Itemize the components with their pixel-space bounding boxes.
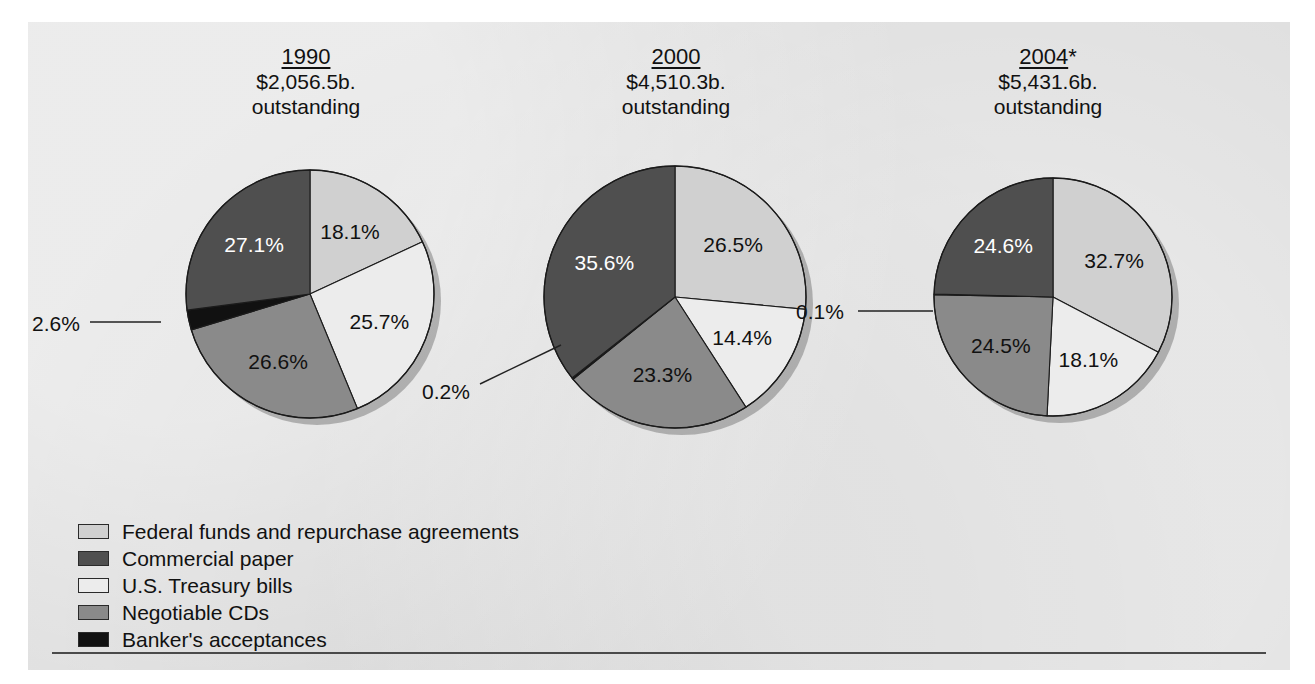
pie-slice-label-federal-funds: 18.1% — [320, 220, 380, 243]
legend-item-federal-funds[interactable]: Federal funds and repurchase agreements — [78, 518, 519, 545]
legend: Federal funds and repurchase agreements … — [78, 518, 519, 653]
pie-slice-label-negotiable-cds: 26.6% — [248, 350, 308, 373]
pie-header-2000: 2000 $4,510.3b. outstanding — [506, 44, 846, 119]
pie-chart-2000: 26.5%14.4%23.3%35.6% — [538, 160, 812, 434]
pie-amount-2004: $5,431.6b. — [878, 69, 1218, 94]
pie-slice-label-treasury-bills: 25.7% — [350, 310, 410, 333]
pie-callout-2000-bankers: 0.2% — [422, 380, 470, 404]
pie-year-1990-text: 1990 — [282, 44, 331, 69]
bottom-divider — [52, 652, 1266, 654]
legend-label-federal-funds: Federal funds and repurchase agreements — [122, 520, 519, 544]
legend-item-negotiable-cds[interactable]: Negotiable CDs — [78, 599, 519, 626]
legend-swatch-bankers-acceptances — [78, 632, 109, 647]
pie-amount-1990: $2,056.5b. — [136, 69, 476, 94]
pie-slice-label-commercial-paper: 24.6% — [973, 234, 1033, 257]
legend-label-negotiable-cds: Negotiable CDs — [122, 601, 269, 625]
pie-header-1990: 1990 $2,056.5b. outstanding — [136, 44, 476, 119]
pie-callout-2004-bankers: 0.1% — [796, 300, 844, 324]
pie-chart-1990-svg: 18.1%25.7%26.6%27.1% — [180, 164, 440, 424]
pie-slice-label-negotiable-cds: 24.5% — [971, 334, 1031, 357]
pie-year-2000: 2000 — [652, 44, 701, 69]
pie-header-2004: 2004* $5,431.6b. outstanding — [878, 44, 1218, 119]
legend-swatch-federal-funds — [78, 524, 109, 539]
pie-chart-2000-svg: 26.5%14.4%23.3%35.6% — [538, 160, 812, 434]
pie-amount-note-1990: outstanding — [136, 94, 476, 119]
pie-chart-2004: 32.7%18.1%24.5%24.6% — [928, 172, 1178, 422]
pie-amount-2000: $4,510.3b. — [506, 69, 846, 94]
pie-year-2004-text: 2004 — [1019, 44, 1068, 69]
pie-amount-note-2004: outstanding — [878, 94, 1218, 119]
legend-label-treasury-bills: U.S. Treasury bills — [122, 574, 292, 598]
pie-chart-2004-svg: 32.7%18.1%24.5%24.6% — [928, 172, 1178, 422]
pie-slice-label-commercial-paper: 27.1% — [224, 233, 284, 256]
pie-callout-2004-bankers-label: 0.1% — [796, 300, 844, 323]
figure-panel: 1990 $2,056.5b. outstanding 2000 $4,510.… — [28, 22, 1290, 670]
pie-year-2004-suffix: * — [1068, 44, 1077, 69]
legend-item-treasury-bills[interactable]: U.S. Treasury bills — [78, 572, 519, 599]
legend-item-commercial-paper[interactable]: Commercial paper — [78, 545, 519, 572]
pie-year-2000-text: 2000 — [652, 44, 701, 69]
legend-item-bankers-acceptances[interactable]: Banker's acceptances — [78, 626, 519, 653]
pie-slice-label-treasury-bills: 14.4% — [712, 326, 772, 349]
pie-amount-note-2000: outstanding — [506, 94, 846, 119]
legend-label-bankers-acceptances: Banker's acceptances — [122, 628, 327, 652]
pie-slice-label-negotiable-cds: 23.3% — [633, 363, 693, 386]
pie-slice-label-commercial-paper: 35.6% — [575, 251, 635, 274]
pie-slice-label-treasury-bills: 18.1% — [1059, 348, 1119, 371]
pie-slice-label-federal-funds: 32.7% — [1084, 249, 1144, 272]
legend-swatch-negotiable-cds — [78, 605, 109, 620]
pie-year-2004: 2004* — [1019, 44, 1077, 69]
pie-callout-1990-bankers-label: 2.6% — [32, 312, 80, 335]
legend-label-commercial-paper: Commercial paper — [122, 547, 294, 571]
pie-year-1990: 1990 — [282, 44, 331, 69]
pie-chart-1990: 18.1%25.7%26.6%27.1% — [180, 164, 440, 424]
pie-callout-1990-bankers: 2.6% — [32, 312, 80, 336]
pie-slice-label-federal-funds: 26.5% — [703, 233, 763, 256]
pie-callout-2000-bankers-label: 0.2% — [422, 380, 470, 403]
legend-swatch-treasury-bills — [78, 578, 109, 593]
legend-swatch-commercial-paper — [78, 551, 109, 566]
